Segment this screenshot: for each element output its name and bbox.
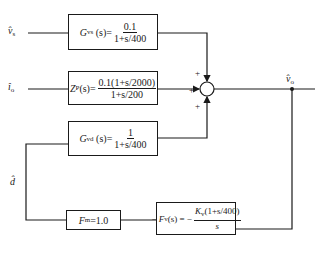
sum-sign-left: +	[189, 85, 194, 95]
zp-denominator: 1+s/200	[111, 89, 143, 100]
gvs-block: Gvs (s)= 0.1 1+s/400	[68, 14, 158, 50]
sum-sign-top: +	[195, 68, 200, 78]
gvs-numerator: 0.1	[123, 21, 138, 33]
fv-denominator: s	[215, 221, 219, 232]
zp-arg: (s)=	[79, 83, 95, 94]
input-io-label: îo	[8, 81, 14, 94]
zp-block: ZP(s)= 0.1(1+s/2000) 1+s/200	[68, 71, 158, 105]
fv-prefix: −	[151, 214, 156, 224]
gvs-fraction: 0.1 1+s/400	[114, 21, 146, 44]
fv-arg: (s) = −	[168, 214, 192, 224]
fm-value: =1.0	[90, 215, 108, 226]
gvd-denominator: 1+s/400	[114, 139, 146, 150]
gvd-arg: (s)=	[96, 133, 112, 144]
fv-numerator: Kv(1+s/400)	[194, 206, 241, 221]
io-subscript: o	[11, 86, 15, 94]
vs-subscript: s	[12, 30, 15, 38]
input-vs-label: v̂s	[8, 25, 15, 38]
gvd-fraction: 1 1+s/400	[114, 127, 146, 150]
fv-numerator-rest: (1+s/400)	[204, 206, 239, 216]
gvs-denominator: 1+s/400	[114, 33, 146, 44]
zp-fraction: 0.1(1+s/2000) 1+s/200	[98, 77, 156, 100]
gvs-name: G	[80, 27, 87, 38]
output-vo-label: v̂o	[286, 73, 294, 86]
gvd-numerator: 1	[127, 127, 134, 139]
gvs-subscript: vs	[87, 28, 93, 36]
sum-sign-bottom: +	[195, 101, 200, 111]
vo-subscript: o	[290, 78, 294, 86]
gvs-arg: (s)=	[96, 27, 112, 38]
fm-block: Fm=1.0	[66, 210, 121, 230]
gvd-name: G	[79, 133, 86, 144]
d-hat-label: d̂	[10, 176, 15, 187]
fv-block: − Fv(s) = − Kv(1+s/400) s	[156, 202, 236, 235]
zp-numerator: 0.1(1+s/2000)	[98, 77, 156, 89]
gvd-subscript: vd	[87, 135, 94, 143]
fv-fraction: Kv(1+s/400) s	[194, 206, 241, 232]
gvd-block: Gvd (s)= 1 1+s/400	[68, 121, 158, 156]
